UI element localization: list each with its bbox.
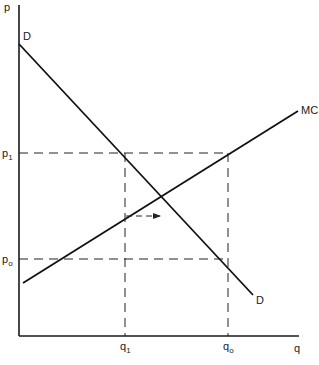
y-axis-label: p bbox=[4, 1, 10, 13]
q0-label: qo bbox=[223, 340, 234, 355]
demand-curve bbox=[19, 44, 253, 295]
marginal-cost-curve bbox=[23, 111, 298, 283]
demand-label-bottom: D bbox=[256, 294, 264, 306]
demand-label-top: D bbox=[23, 30, 31, 42]
x-axis-label: q bbox=[294, 342, 300, 354]
p1-label: p1 bbox=[2, 147, 13, 162]
q1-label: q1 bbox=[120, 340, 131, 355]
mc-label: MC bbox=[301, 104, 318, 116]
supply-demand-diagram: p q D D MC p1 po q1 qo bbox=[0, 0, 319, 365]
p0-label: po bbox=[2, 253, 13, 268]
